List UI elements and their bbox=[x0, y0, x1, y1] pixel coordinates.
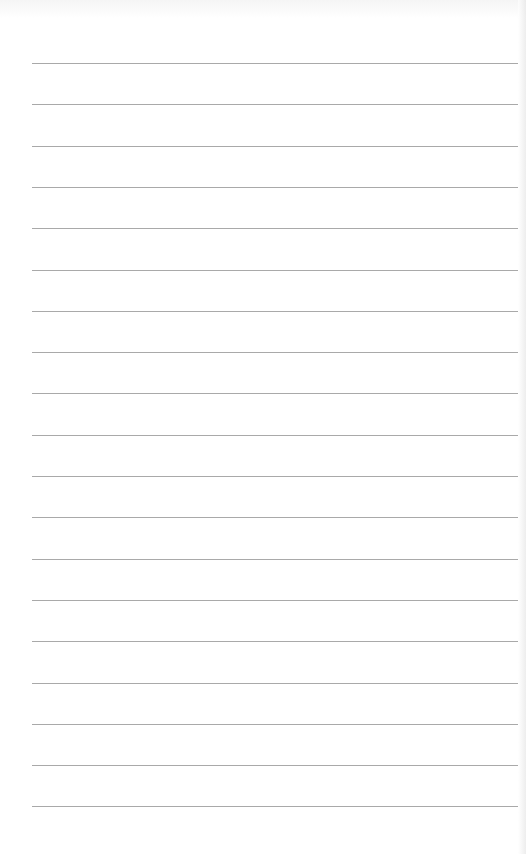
ruled-line bbox=[32, 806, 518, 807]
paper-right-shadow bbox=[518, 0, 526, 854]
ruled-line bbox=[32, 600, 518, 601]
ruled-line bbox=[32, 187, 518, 188]
ruled-line bbox=[32, 435, 518, 436]
ruled-line bbox=[32, 476, 518, 477]
ruled-line bbox=[32, 228, 518, 229]
ruled-line bbox=[32, 641, 518, 642]
ruled-line bbox=[32, 559, 518, 560]
ruled-line bbox=[32, 104, 518, 105]
ruled-line bbox=[32, 352, 518, 353]
ruled-line bbox=[32, 765, 518, 766]
ruled-line bbox=[32, 311, 518, 312]
ruled-line bbox=[32, 146, 518, 147]
ruled-line bbox=[32, 724, 518, 725]
paper-top-shadow bbox=[0, 0, 526, 18]
lined-paper-sheet bbox=[0, 0, 526, 854]
ruled-line bbox=[32, 683, 518, 684]
ruled-line bbox=[32, 517, 518, 518]
ruled-line bbox=[32, 393, 518, 394]
ruled-line bbox=[32, 63, 518, 64]
ruled-line bbox=[32, 270, 518, 271]
